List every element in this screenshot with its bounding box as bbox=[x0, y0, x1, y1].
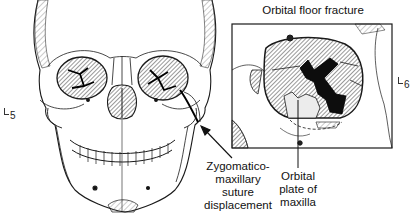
corner-mark-icon bbox=[398, 77, 403, 84]
orbital-inset bbox=[232, 24, 392, 168]
figure-ref-left-number: 5 bbox=[10, 110, 16, 121]
zygomatico-label-line-2: maxillary bbox=[196, 173, 280, 186]
zygomatico-label-line-4: displacement bbox=[196, 199, 280, 212]
corner-mark-icon bbox=[4, 108, 9, 115]
zygomatico-label-line-1: Zygomatico- bbox=[196, 160, 280, 173]
figure-ref-right: 6 bbox=[398, 79, 410, 90]
zygomatico-arrow bbox=[201, 126, 232, 158]
orbital-plate-label-line-2: plate of bbox=[273, 183, 323, 196]
orbital-plate-label: Orbital plate of maxilla bbox=[273, 170, 323, 209]
orbital-plate-label-line-1: Orbital bbox=[273, 170, 323, 183]
skull-fracture-figure: Orbital floor fracture Zygomatico- maxil… bbox=[0, 0, 417, 218]
inset-title: Orbital floor fracture bbox=[248, 4, 378, 17]
figure-ref-left: 5 bbox=[4, 110, 16, 121]
orbital-plate-label-line-3: maxilla bbox=[273, 196, 323, 209]
frontal-skull bbox=[34, 0, 216, 212]
figure-ref-right-number: 6 bbox=[404, 79, 410, 90]
zygomatico-label: Zygomatico- maxillary suture displacemen… bbox=[196, 160, 280, 212]
zygomatico-label-line-3: suture bbox=[196, 186, 280, 199]
